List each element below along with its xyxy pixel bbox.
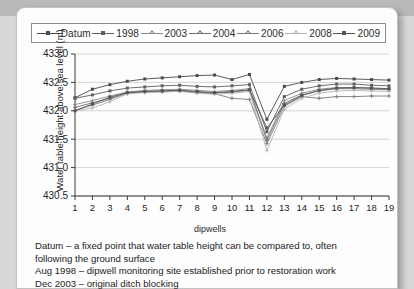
data-point [231, 78, 234, 81]
data-point [178, 89, 181, 92]
data-point [91, 102, 94, 105]
data-point [300, 88, 303, 91]
x-tick-label: 7 [177, 202, 182, 213]
x-tick-label: 4 [125, 202, 130, 213]
legend-swatch-2004 [189, 29, 211, 38]
x-tick-label: 19 [384, 202, 395, 213]
data-point [143, 77, 146, 80]
x-tick-label: 8 [194, 202, 199, 213]
data-point [353, 77, 356, 80]
data-point [300, 81, 303, 84]
x-tick-label: 10 [227, 202, 238, 213]
legend-item-2006[interactable]: 2006 [237, 28, 284, 39]
legend-label-2004: 2004 [213, 28, 236, 39]
legend-swatch-2008 [285, 29, 307, 38]
x-tick-label: 5 [142, 202, 147, 213]
x-tick-label: 2 [90, 202, 95, 213]
data-point [230, 96, 234, 100]
data-point [143, 90, 146, 93]
data-point [178, 75, 181, 78]
data-point [231, 84, 234, 87]
x-tick-label: 13 [279, 202, 290, 213]
data-point [213, 74, 216, 77]
data-point [352, 95, 356, 99]
data-point [143, 85, 146, 88]
page-content: Datum 1998 2003 2004 2006 2008 [17, 8, 397, 288]
document-page-card: Datum 1998 2003 2004 2006 2008 [16, 7, 398, 289]
data-point [388, 79, 391, 82]
legend-item-2004[interactable]: 2004 [189, 28, 236, 39]
data-point [265, 126, 268, 129]
data-point [353, 83, 356, 86]
series-2006 [73, 89, 391, 146]
legend-swatch-1998 [92, 29, 114, 38]
data-point [247, 97, 251, 101]
data-point [335, 95, 339, 99]
y-tick-label: 431.0 [43, 162, 68, 173]
legend-label-2003: 2003 [165, 28, 188, 39]
data-point [161, 84, 164, 87]
x-tick-label: 9 [212, 202, 217, 213]
y-tick-label: 433.0 [43, 48, 68, 59]
x-tick-label: 1 [72, 202, 77, 213]
legend-label-datum: Datum [61, 28, 91, 39]
data-point [90, 106, 94, 110]
x-tick-label: 14 [296, 202, 307, 213]
data-point [196, 74, 199, 77]
series-2009 [74, 86, 391, 129]
data-point [126, 80, 129, 83]
data-point [370, 78, 373, 81]
caption-datum-text-b: following the ground surface [35, 253, 155, 264]
y-tick-label: 432.0 [43, 105, 68, 116]
data-point [108, 96, 111, 99]
data-point [248, 73, 251, 76]
legend-swatch-2009 [333, 29, 355, 38]
legend-label-2008: 2008 [309, 28, 332, 39]
data-point [318, 84, 321, 87]
x-tick-label: 3 [107, 202, 112, 213]
data-point [74, 109, 77, 112]
data-point [196, 85, 199, 88]
chart-plot-svg: 430.5431.0431.5432.0432.5433.01234567891… [25, 48, 395, 223]
data-point [161, 76, 164, 79]
legend-item-2003[interactable]: 2003 [141, 28, 188, 39]
legend-item-1998[interactable]: 1998 [92, 28, 139, 39]
line-chart: Water table height above sea level (m) 4… [25, 48, 395, 238]
legend-label-1998: 1998 [116, 28, 139, 39]
legend-item-2008[interactable]: 2008 [285, 28, 332, 39]
data-point [335, 77, 338, 80]
data-point [283, 85, 286, 88]
data-point [283, 95, 286, 98]
legend-label-2009: 2009 [357, 28, 380, 39]
data-point [74, 97, 77, 100]
x-tick-label: 16 [331, 202, 342, 213]
x-tick-label: 18 [366, 202, 377, 213]
data-point [265, 149, 269, 153]
y-tick-label: 430.5 [43, 190, 68, 201]
y-tick-label: 431.5 [43, 134, 68, 145]
x-tick-label: 17 [349, 202, 360, 213]
data-point [318, 78, 321, 81]
caption-line-1998: Aug 1998 – dipwell monitoring site estab… [35, 265, 387, 278]
data-point [265, 118, 268, 121]
x-axis-title: dipwells [25, 224, 395, 234]
data-point [300, 94, 303, 97]
legend-item-2009[interactable]: 2009 [333, 28, 380, 39]
data-point [126, 87, 129, 90]
figure-caption: Datum – a fixed point that water table h… [35, 240, 387, 289]
chart-legend: Datum 1998 2003 2004 2006 2008 [31, 23, 386, 43]
legend-swatch-2006 [237, 29, 259, 38]
caption-line-datum: Datum – a fixed point that water table h… [35, 240, 387, 265]
x-tick-label: 11 [245, 202, 255, 213]
data-point [388, 87, 391, 90]
x-tick-label: 12 [262, 202, 273, 213]
data-point [178, 84, 181, 87]
data-point [213, 91, 216, 94]
data-point [370, 94, 374, 98]
data-point [335, 83, 338, 86]
caption-datum-text-a: Datum – a fixed point that water table h… [35, 240, 337, 251]
data-point [248, 83, 251, 86]
data-point [370, 87, 373, 90]
data-point [335, 87, 338, 90]
data-point [91, 93, 94, 96]
